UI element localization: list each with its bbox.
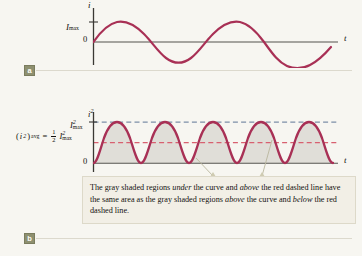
figure-root: i Imax 0 t a i2 I2max 0 t ( i 2 ) avg = …: [0, 0, 362, 256]
panel-a-sine-curve: [94, 22, 332, 69]
panel-b-x-axis-label: t: [344, 155, 347, 165]
caption-em-above-1: above: [240, 183, 260, 192]
panel-b-y-axis-label: i2: [88, 103, 90, 121]
eq-lhs-sub: avg: [31, 133, 39, 139]
caption-part2: the curve and: [191, 183, 239, 192]
panel-a-badge: a: [24, 65, 35, 76]
eq-fraction-one-half: 1 2: [51, 129, 56, 144]
panel-a-zero-label: 0: [83, 34, 87, 44]
panel-b-badge: b: [24, 233, 35, 244]
caption-part1: The gray shaded regions: [90, 183, 172, 192]
panel-a-peak-tick-label: Imax: [66, 16, 69, 34]
panel-b-zero-label: 0: [83, 156, 87, 166]
caption-em-below: below: [293, 195, 313, 204]
caption-box: The gray shaded regions under the curve …: [82, 176, 356, 224]
eq-lhs-open: (: [16, 131, 19, 141]
eq-lhs-close: ): [27, 131, 30, 141]
mean-square-equation: ( i 2 ) avg = 1 2 I 2 max: [16, 129, 62, 144]
caption-em-above-2: above: [225, 195, 245, 204]
eq-equals: =: [42, 131, 47, 141]
panel-a-y-axis-label: i: [88, 0, 91, 10]
panel-b-peak-tick-label: I2max: [70, 114, 73, 132]
eq-frac-denominator: 2: [51, 137, 56, 143]
caption-part4: the curve and: [245, 195, 293, 204]
caption-em-under: under: [172, 183, 191, 192]
eq-lhs-var: i: [20, 131, 22, 141]
panel-a-x-axis-label: t: [344, 33, 347, 43]
eq-lhs-sup: 2: [23, 133, 26, 139]
eq-rhs-imax-squared: I 2 max: [59, 132, 62, 141]
eq-frac-numerator: 1: [51, 129, 56, 135]
